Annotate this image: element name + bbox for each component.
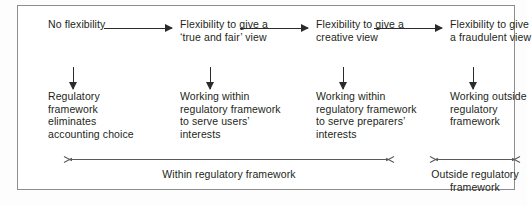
arrow-stage2-to-stage3 xyxy=(240,24,308,33)
stage-4-outcome: Working outside regulatory framework xyxy=(450,90,532,128)
arrow-down-stage-3 xyxy=(339,67,348,89)
arrow-stage3-to-stage4 xyxy=(374,24,442,33)
arrow-shaft xyxy=(435,159,515,160)
diagram-frame: No flexibility Flexibility to give a ‘tr… xyxy=(17,5,515,190)
arrow-head-right-icon xyxy=(301,24,309,32)
stage-2-outcome: Working within regulatory framework to s… xyxy=(180,90,288,140)
arrow-head-right-icon xyxy=(383,154,394,165)
arrow-head-right-icon xyxy=(435,24,443,32)
range-arrow-outside-framework xyxy=(430,154,520,165)
arrow-head-down-icon xyxy=(469,82,477,90)
arrow-head-down-icon xyxy=(69,82,77,90)
range-label-outside-framework: Outside regulatory framework xyxy=(422,168,528,193)
range-label-within-framework: Within regulatory framework xyxy=(64,168,394,181)
arrow-shaft xyxy=(104,28,172,29)
stage-3-outcome: Working within regulatory framework to s… xyxy=(316,90,428,140)
arrow-down-stage-4 xyxy=(469,67,478,89)
arrow-shaft xyxy=(69,159,389,160)
arrow-down-stage-1 xyxy=(69,67,78,89)
range-arrow-within-framework xyxy=(64,154,394,165)
arrow-head-down-icon xyxy=(206,82,214,90)
arrow-stage1-to-stage2 xyxy=(104,24,172,33)
arrow-head-right-icon xyxy=(165,24,173,32)
arrow-shaft xyxy=(240,28,308,29)
arrow-down-stage-2 xyxy=(206,67,215,89)
stage-4-heading: Flexibility to give a fraudulent view xyxy=(450,18,532,43)
arrow-shaft xyxy=(374,28,442,29)
stage-4-heading-block: Flexibility to give a fraudulent view xyxy=(450,18,532,43)
arrow-head-right-icon xyxy=(509,154,520,165)
arrow-head-down-icon xyxy=(339,82,347,90)
stage-1-outcome: Regulatory framework eliminates accounti… xyxy=(48,90,146,140)
